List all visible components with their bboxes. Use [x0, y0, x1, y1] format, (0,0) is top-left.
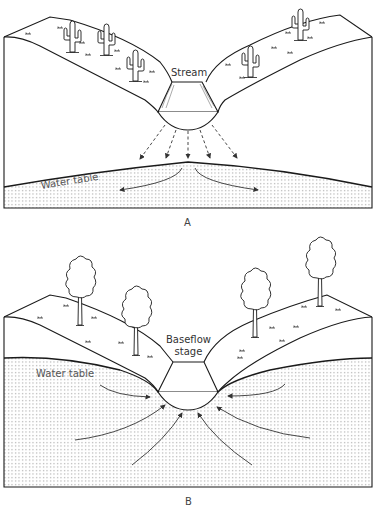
panel-label-b: B: [185, 496, 192, 507]
baseflow-label-line2: stage: [166, 346, 211, 358]
streambed-a: [158, 112, 218, 130]
stream-channel-b: [158, 362, 218, 392]
water-table-label-b: Water table: [36, 368, 94, 379]
stream-channel-a: [158, 82, 218, 112]
panel-b: [4, 237, 372, 487]
panel-label-a: A: [184, 217, 191, 228]
baseflow-stage-label: Baseflow stage: [166, 334, 211, 358]
stream-label: Stream: [171, 67, 207, 78]
baseflow-label-line1: Baseflow: [166, 334, 211, 346]
